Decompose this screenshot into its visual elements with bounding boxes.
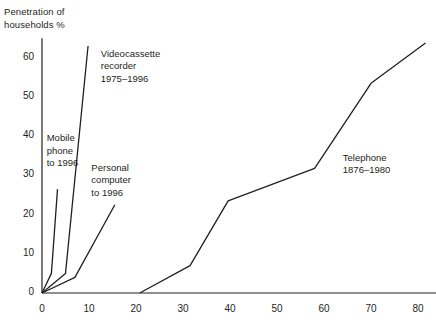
y-tick-label-0: 0 [8,286,34,297]
y-tick-label-20: 20 [8,208,34,219]
x-tick-label-50: 50 [262,303,292,314]
y-tick-label-10: 10 [8,247,34,258]
chart-figure: Penetration of households % 010203040506… [0,0,436,332]
x-tick-label-30: 30 [168,303,198,314]
x-tick-label-20: 20 [121,303,151,314]
x-tick-label-80: 80 [403,303,433,314]
series-label-1: Videocassette recorder 1975–1996 [101,48,161,86]
x-tick-label-60: 60 [309,303,339,314]
series-label-2: Personal computer to 1996 [91,162,131,200]
y-tick-label-60: 60 [8,51,34,62]
y-tick-label-30: 30 [8,168,34,179]
series-label-0: Mobile phone to 1996 [47,132,79,170]
series-label-3: Telephone 1876–1980 [343,152,391,177]
y-tick-label-40: 40 [8,129,34,140]
x-tick-label-10: 10 [74,303,104,314]
x-tick-label-0: 0 [27,303,57,314]
x-tick-label-70: 70 [356,303,386,314]
series-line-0 [42,189,58,293]
y-tick-label-50: 50 [8,90,34,101]
x-tick-label-40: 40 [215,303,245,314]
